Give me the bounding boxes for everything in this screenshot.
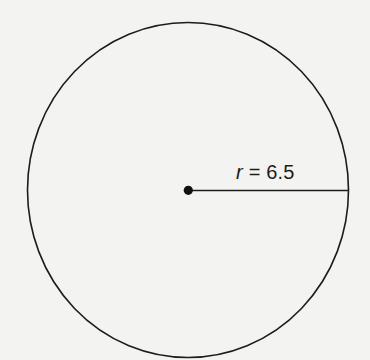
center-point <box>184 186 193 195</box>
radius-equals: = <box>243 161 266 183</box>
circle-figure <box>0 0 370 360</box>
radius-value: 6.5 <box>266 161 294 183</box>
circle-diagram: r = 6.5 <box>0 0 370 360</box>
radius-variable: r <box>236 161 243 183</box>
radius-label: r = 6.5 <box>236 161 295 184</box>
